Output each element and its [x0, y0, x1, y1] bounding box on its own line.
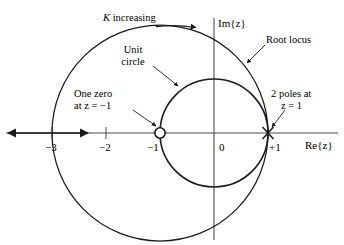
- k-increasing-symbol: K: [103, 12, 110, 23]
- one-zero-leader: [133, 110, 156, 126]
- imaginary-axis-label: Im{z}: [218, 17, 246, 29]
- two-poles-label-line1: 2 poles at: [271, 88, 311, 99]
- unit-circle-label: Unitcircle: [113, 44, 153, 68]
- unit-circle-leader: [153, 66, 178, 86]
- one-zero-label-line1: One zero: [74, 88, 112, 99]
- tick-label-plus1: +1: [269, 141, 281, 153]
- root-locus-leader: [247, 45, 265, 63]
- tick-label-minus1: −1: [147, 141, 159, 153]
- origin-label: 0: [219, 141, 225, 153]
- one-zero-label: One zeroat z = −1: [74, 88, 112, 112]
- root-locus-label: Root locus: [266, 34, 311, 46]
- tick-label-minus3: −3: [45, 141, 57, 153]
- two-poles-leader: [272, 110, 285, 127]
- real-axis-label: Re{z}: [305, 139, 333, 151]
- tick-label-minus2: −2: [99, 141, 111, 153]
- k-increasing-label: K increasing: [103, 12, 156, 24]
- two-poles-label-line2: z = 1: [281, 100, 302, 112]
- one-zero-label-line2: at z = −1: [74, 100, 111, 111]
- k-increasing-text: increasing: [110, 12, 156, 23]
- root-locus-figure: K increasing Im{z} Root locus Unitcircle…: [0, 0, 344, 245]
- zero-marker: [155, 128, 165, 138]
- unit-circle-label-line1: Unit: [124, 44, 143, 55]
- unit-circle-label-line2: circle: [121, 56, 144, 67]
- two-poles-label: 2 poles atz = 1: [271, 88, 311, 112]
